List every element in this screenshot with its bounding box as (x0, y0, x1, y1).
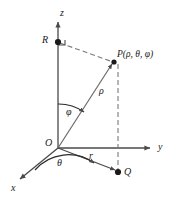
rho-label: ρ (99, 86, 104, 96)
z-axis-label: z (60, 8, 64, 18)
r-label: r (89, 151, 93, 161)
point-P-label: P(ρ, θ, φ) (117, 50, 153, 60)
point-R-label: R (42, 35, 48, 45)
theta-angle-label: θ (57, 158, 62, 168)
x-axis (20, 148, 58, 179)
point-P-dot (111, 59, 116, 64)
phi-angle-label: φ (66, 107, 72, 117)
x-axis-label: x (11, 183, 15, 193)
point-R-dot (55, 39, 61, 45)
figure-canvas (0, 0, 171, 198)
theta-arc (35, 155, 94, 170)
y-axis-label: y (158, 142, 162, 152)
rp-dashed-segment (60, 43, 113, 62)
spherical-coordinates-figure: z y x R O Q P(ρ, θ, φ) ρ r φ θ (0, 0, 171, 198)
point-O-label: O (45, 138, 52, 148)
point-Q-dot (115, 169, 121, 175)
point-Q-label: Q (124, 167, 131, 177)
